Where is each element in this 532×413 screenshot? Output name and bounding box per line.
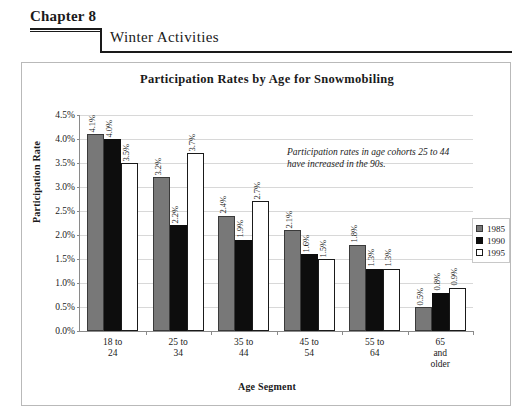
bar-value-label: 1.9% — [236, 220, 245, 238]
legend-swatch — [476, 249, 483, 256]
chart-annotation: Participation rates in age cohorts 25 to… — [287, 146, 467, 170]
x-category-label: 18 to24 — [80, 337, 146, 359]
bar[interactable]: 0.8% — [432, 293, 449, 331]
bar[interactable]: 2.1% — [284, 230, 301, 331]
bar-value-label: 3.2% — [153, 158, 162, 176]
y-tick-mark — [77, 139, 80, 140]
y-tick-mark — [77, 115, 80, 116]
bar-value-label: 1.3% — [367, 249, 376, 267]
x-category-label: 35 to44 — [211, 337, 277, 359]
y-tick-label: 2.5% — [55, 206, 75, 216]
x-tick-mark — [342, 331, 343, 335]
chart-container: Participation Rates by Age for Snowmobil… — [21, 62, 511, 406]
header-rule-top — [30, 28, 100, 30]
section-title: Winter Activities — [110, 29, 219, 46]
x-axis-title: Age Segment — [22, 381, 512, 392]
x-category-label: 55 to64 — [342, 337, 408, 359]
x-category-label: 25 to34 — [146, 337, 212, 359]
y-tick-label: 3.5% — [55, 158, 75, 168]
bar[interactable]: 1.3% — [383, 269, 400, 331]
legend-item[interactable]: 1985 — [476, 223, 505, 234]
legend-label: 1985 — [487, 224, 505, 234]
bar-value-label: 2.1% — [284, 210, 293, 228]
bar[interactable]: 2.2% — [170, 225, 187, 331]
bar-value-label: 2.2% — [170, 206, 179, 224]
y-tick-mark — [77, 211, 80, 212]
bar-value-label: 3.5% — [122, 143, 131, 161]
header-vertical-bar — [100, 28, 102, 53]
page-header: Chapter 8 Winter Activities — [0, 0, 532, 56]
y-tick-label: 0.5% — [55, 302, 75, 312]
bar-value-label: 3.7% — [187, 134, 196, 152]
bar[interactable]: 0.9% — [449, 288, 466, 331]
bar-value-label: 1.3% — [384, 249, 393, 267]
bar[interactable]: 4.0% — [104, 139, 121, 331]
bar[interactable]: 1.9% — [235, 240, 252, 331]
y-tick-mark — [77, 283, 80, 284]
bar[interactable]: 1.6% — [301, 254, 318, 331]
x-tick-mark — [211, 331, 212, 335]
bar-value-label: 2.7% — [253, 182, 262, 200]
x-tick-mark — [473, 331, 474, 335]
bar[interactable]: 3.2% — [153, 177, 170, 331]
bar-group: 4.1%4.0%3.5% — [87, 115, 138, 331]
y-tick-label: 2.0% — [55, 230, 75, 240]
chart-legend: 198519901995 — [472, 218, 510, 263]
bar-value-label: 0.9% — [449, 268, 458, 286]
bar-value-label: 4.0% — [105, 119, 114, 137]
header-rule-mid — [30, 31, 100, 32]
y-tick-mark — [77, 331, 80, 332]
y-tick-label: 0.0% — [55, 326, 75, 336]
y-tick-label: 4.5% — [55, 110, 75, 120]
y-tick-label: 3.0% — [55, 182, 75, 192]
y-tick-mark — [77, 307, 80, 308]
legend-item[interactable]: 1990 — [476, 235, 505, 246]
y-tick-label: 1.5% — [55, 254, 75, 264]
bar[interactable]: 4.1% — [87, 134, 104, 331]
y-tick-mark — [77, 235, 80, 236]
bar[interactable]: 2.4% — [218, 216, 235, 331]
legend-label: 1990 — [487, 236, 505, 246]
header-rule-bottom — [100, 51, 512, 53]
bar-value-label: 1.8% — [350, 225, 359, 243]
bar-value-label: 0.8% — [432, 273, 441, 291]
bar[interactable]: 3.7% — [187, 153, 204, 331]
bar-value-label: 1.6% — [301, 234, 310, 252]
bar-value-label: 4.1% — [88, 114, 97, 132]
x-tick-mark — [408, 331, 409, 335]
x-category-label: 65andolder — [408, 337, 474, 370]
y-tick-mark — [77, 163, 80, 164]
bar[interactable]: 3.5% — [121, 163, 138, 331]
bar[interactable]: 0.5% — [415, 307, 432, 331]
y-axis-title: Participation Rate — [31, 141, 42, 223]
bar[interactable]: 1.8% — [349, 245, 366, 331]
legend-swatch — [476, 225, 483, 232]
legend-label: 1995 — [487, 248, 505, 258]
legend-swatch — [476, 237, 483, 244]
bar-value-label: 2.4% — [219, 196, 228, 214]
x-category-label: 45 to54 — [277, 337, 343, 359]
bar[interactable]: 1.5% — [318, 259, 335, 331]
legend-item[interactable]: 1995 — [476, 247, 505, 258]
bar[interactable]: 2.7% — [252, 201, 269, 331]
bar-group: 2.4%1.9%2.7% — [218, 115, 269, 331]
y-tick-mark — [77, 259, 80, 260]
bar-value-label: 0.5% — [415, 287, 424, 305]
bar[interactable]: 1.3% — [366, 269, 383, 331]
chart-title: Participation Rates by Age for Snowmobil… — [22, 72, 512, 87]
y-tick-mark — [77, 187, 80, 188]
bar-group: 3.2%2.2%3.7% — [153, 115, 204, 331]
x-tick-mark — [277, 331, 278, 335]
y-tick-label: 1.0% — [55, 278, 75, 288]
x-tick-mark — [146, 331, 147, 335]
bar-value-label: 1.5% — [318, 239, 327, 257]
y-tick-label: 4.0% — [55, 134, 75, 144]
chapter-label: Chapter 8 — [30, 8, 96, 25]
